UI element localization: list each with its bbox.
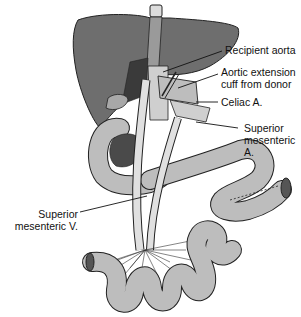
label-text: cuff from donor xyxy=(221,78,296,90)
label-text: Superior xyxy=(244,122,295,134)
label-text: Aortic extension xyxy=(221,66,296,78)
anatomy-diagram: Recipient aorta Aortic extension cuff fr… xyxy=(0,0,301,317)
bowel-stoma-right xyxy=(281,178,291,198)
bowel-stoma-left xyxy=(86,253,94,271)
label-celiac-a: Celiac A. xyxy=(221,96,262,108)
label-recipient-aorta: Recipient aorta xyxy=(225,44,296,56)
gallbladder xyxy=(106,94,128,109)
label-text: mesenteric xyxy=(244,134,295,146)
label-superior-mesenteric-a: Superior mesenteric A. xyxy=(244,122,295,158)
label-text: A. xyxy=(244,146,295,158)
label-aortic-extension-cuff: Aortic extension cuff from donor xyxy=(221,66,296,90)
label-text: mesenteric V. xyxy=(12,220,78,232)
label-text: Superior xyxy=(12,208,78,220)
label-superior-mesenteric-v: Superior mesenteric V. xyxy=(12,208,78,232)
label-text: Celiac A. xyxy=(221,96,262,108)
label-text: Recipient aorta xyxy=(225,44,296,56)
ivc-cap xyxy=(150,5,162,17)
